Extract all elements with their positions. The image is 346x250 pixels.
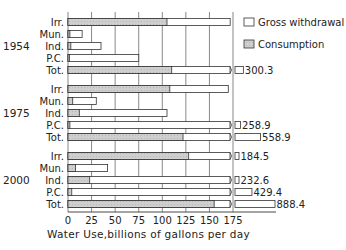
consumption-bar	[68, 165, 76, 172]
consumption-bar	[68, 201, 214, 208]
legend-gross-label: Gross withdrawal	[258, 17, 344, 28]
bar-1975-tot: 558.9	[68, 132, 291, 143]
bar-1954-tot: 300.3	[68, 65, 273, 76]
x-tick-label: 125	[176, 215, 195, 226]
bar-1975-irr	[68, 86, 228, 93]
consumption-bar	[68, 177, 90, 184]
consumption-bar	[68, 153, 189, 160]
category-label: Ind.	[45, 41, 64, 52]
bar-1975-mun	[68, 98, 96, 105]
overflow-bar-stub	[235, 189, 252, 196]
gross-withdrawal-bar	[68, 189, 230, 196]
category-label: Irr.	[51, 17, 64, 28]
x-tick-label: 75	[132, 215, 145, 226]
x-tick-label: 50	[109, 215, 122, 226]
x-tick-label: 25	[85, 215, 98, 226]
gross-withdrawal-bar	[68, 43, 101, 50]
value-label: 300.3	[245, 65, 274, 76]
consumption-bar	[68, 55, 70, 62]
overflow-bar-stub	[235, 201, 275, 208]
value-label: 184.5	[241, 151, 270, 162]
category-label: Tot.	[45, 132, 64, 143]
value-label: 232.6	[241, 175, 270, 186]
bar-1954-pc	[68, 55, 139, 62]
bar-2000-irr: 184.5	[68, 151, 269, 162]
gross-withdrawal-bar	[68, 55, 139, 62]
overflow-bar-stub	[235, 153, 239, 160]
bar-1954-mun	[68, 31, 82, 38]
category-label: Tot.	[45, 199, 64, 210]
consumption-bar	[68, 110, 79, 117]
category-label: Ind.	[45, 108, 64, 119]
value-label: 558.9	[262, 132, 291, 143]
category-label: P.C.	[46, 187, 64, 198]
value-label: 888.4	[277, 199, 306, 210]
consumption-bar	[68, 189, 72, 196]
category-labels: 1954Irr.Mun.Ind.P.C.Tot.1975Irr.Mun.Ind.…	[3, 17, 64, 210]
bar-1954-ind	[68, 43, 101, 50]
bar-1954-irr	[68, 19, 230, 26]
legend: Gross withdrawal Consumption	[244, 17, 344, 50]
value-label: 258.9	[242, 120, 271, 131]
value-label: 429.4	[253, 187, 282, 198]
consumption-bar	[68, 67, 172, 74]
category-label: P.C.	[46, 53, 64, 64]
x-axis: 0255075100125150175	[65, 212, 276, 226]
year-label: 1975	[3, 107, 30, 119]
category-label: Mun.	[40, 96, 64, 107]
consumption-bar	[68, 31, 70, 38]
year-label: 2000	[3, 174, 30, 186]
bar-2000-mun	[68, 165, 108, 172]
x-tick-label: 150	[200, 215, 219, 226]
consumption-bar	[68, 98, 73, 105]
bar-2000-ind: 232.6	[68, 175, 269, 186]
category-label: P.C.	[46, 120, 64, 131]
overflow-bar-stub	[235, 67, 243, 74]
gross-withdrawal-bar	[68, 110, 167, 117]
legend-consumption-label: Consumption	[258, 39, 324, 50]
consumption-bar	[68, 43, 71, 50]
consumption-bar	[68, 86, 170, 93]
legend-consumption-swatch	[244, 40, 254, 48]
overflow-bar-stub	[235, 134, 261, 141]
x-tick-label: 100	[153, 215, 172, 226]
bar-2000-tot: 888.4	[68, 199, 305, 210]
gross-withdrawal-bar	[68, 177, 230, 184]
consumption-bar	[68, 122, 70, 129]
category-label: Mun.	[40, 163, 64, 174]
x-tick-label: 0	[65, 215, 71, 226]
category-label: Irr.	[51, 84, 64, 95]
x-tick-label: 175	[223, 215, 242, 226]
consumption-bar	[68, 134, 183, 141]
consumption-bar	[68, 19, 167, 26]
bar-1975-pc: 258.9	[68, 120, 271, 131]
legend-gross-swatch	[244, 18, 254, 26]
category-label: Ind.	[45, 175, 64, 186]
water-use-chart: 300.3258.9558.9184.5232.6429.4888.4 1954…	[0, 0, 346, 250]
category-label: Mun.	[40, 29, 64, 40]
bar-2000-pc: 429.4	[68, 187, 282, 198]
category-label: Tot.	[45, 65, 64, 76]
overflow-bar-stub	[235, 177, 239, 184]
category-label: Irr.	[51, 151, 64, 162]
year-label: 1954	[3, 40, 30, 52]
gross-withdrawal-bar	[68, 122, 230, 129]
overflow-bar-stub	[235, 122, 241, 129]
x-axis-title: Water Use,billions of gallons per day	[47, 228, 250, 240]
bar-1975-ind	[68, 110, 167, 117]
